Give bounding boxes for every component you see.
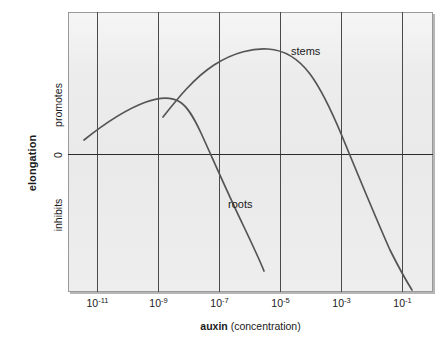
x-axis-title: auxin (concentration): [68, 320, 433, 332]
x-tick-0-base: 10: [87, 297, 99, 309]
curve-label-stems: stems: [291, 45, 320, 57]
x-tick-3-exponent: -5: [283, 296, 290, 305]
x-tick-5: 10-1: [375, 297, 431, 309]
y-tick-inhibits: inhibits: [52, 165, 64, 265]
x-tick-2-exponent: -7: [222, 296, 229, 305]
x-tick-0: 10-11: [70, 297, 126, 309]
x-tick-2-base: 10: [210, 297, 222, 309]
gridlines: [98, 12, 403, 292]
x-tick-3-base: 10: [271, 297, 283, 309]
x-tick-5-base: 10: [393, 297, 405, 309]
y-axis-title: elongation: [26, 83, 38, 243]
x-tick-1: 10-9: [131, 297, 187, 309]
x-tick-4-base: 10: [332, 297, 344, 309]
x-tick-4-exponent: -3: [344, 296, 351, 305]
x-tick-0-exponent: -11: [98, 296, 108, 305]
curve-label-roots: roots: [228, 198, 252, 210]
x-tick-1-exponent: -9: [161, 296, 168, 305]
x-tick-5-exponent: -1: [405, 296, 412, 305]
plot-vector-layer: [68, 12, 433, 292]
x-axis-title-bold: auxin: [200, 320, 227, 332]
x-tick-4: 10-3: [314, 297, 370, 309]
curve-stems: [163, 49, 412, 290]
auxin-elongation-figure: stems roots elongation promotes 0 inhibi…: [0, 0, 448, 341]
x-tick-2: 10-7: [192, 297, 248, 309]
curve-roots: [84, 98, 264, 271]
x-tick-1-base: 10: [149, 297, 161, 309]
x-tick-3: 10-5: [253, 297, 309, 309]
x-axis-title-rest: (concentration): [228, 320, 301, 332]
